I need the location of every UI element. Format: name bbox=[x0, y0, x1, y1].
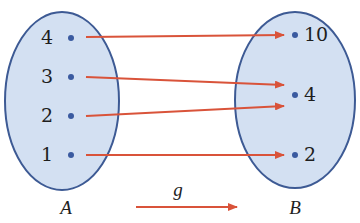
dot-icon bbox=[292, 92, 298, 98]
set-a-label: A bbox=[58, 197, 72, 218]
svg-text:10: 10 bbox=[304, 23, 328, 45]
dot-icon bbox=[292, 152, 298, 158]
svg-text:1: 1 bbox=[41, 143, 53, 165]
svg-text:4: 4 bbox=[41, 26, 53, 48]
svg-text:2: 2 bbox=[41, 104, 53, 126]
dot-icon bbox=[68, 35, 74, 41]
dot-icon bbox=[68, 152, 74, 158]
set-b-ellipse bbox=[235, 12, 355, 188]
dot-icon bbox=[292, 32, 298, 38]
set-a-ellipse bbox=[5, 12, 119, 190]
function-label: g bbox=[173, 179, 183, 200]
svg-text:3: 3 bbox=[41, 65, 53, 87]
mapping-diagram: 4 3 2 1 10 4 2 A B g bbox=[0, 0, 360, 223]
dot-icon bbox=[68, 74, 74, 80]
svg-text:4: 4 bbox=[304, 83, 316, 105]
dot-icon bbox=[68, 113, 74, 119]
svg-text:2: 2 bbox=[304, 143, 316, 165]
set-b-label: B bbox=[289, 197, 301, 218]
